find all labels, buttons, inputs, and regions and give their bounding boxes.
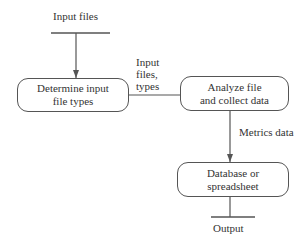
edge-label-input-files-types: Input files, types (136, 56, 159, 92)
sink-label: Output (213, 222, 244, 234)
edge-label-line: Input (136, 56, 159, 68)
node-label-line: Database or (207, 167, 259, 180)
node-label-line: and collect data (200, 94, 269, 107)
node-database-spreadsheet: Database or spreadsheet (177, 162, 289, 197)
node-label-line: Analyze file (200, 81, 269, 94)
node-label-line: file types (37, 95, 109, 108)
connector-lines (0, 0, 306, 241)
edge-label-line: files, (136, 68, 159, 80)
node-label-line: spreadsheet (207, 180, 259, 193)
source-label: Input files (53, 10, 98, 22)
arrowhead-icon (73, 70, 79, 78)
node-determine-file-types: Determine input file types (17, 78, 129, 112)
node-label-line: Determine input (37, 82, 109, 95)
node-analyze-file: Analyze file and collect data (180, 76, 289, 111)
edge-label-metrics-data: Metrics data (239, 126, 294, 138)
arrowhead-icon (227, 154, 233, 162)
edge-label-line: types (136, 80, 159, 92)
